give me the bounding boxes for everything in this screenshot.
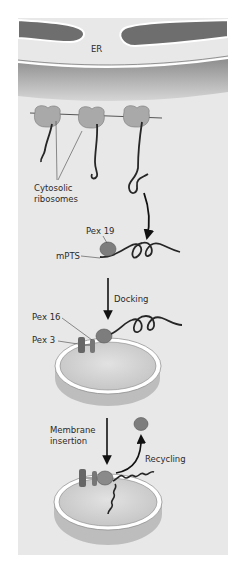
docking-label: Docking xyxy=(114,294,149,304)
pex3-inserted xyxy=(79,469,86,487)
pex16-label: Pex 16 xyxy=(32,312,60,322)
ribosomes-label-line2: ribosomes xyxy=(34,194,79,204)
pex3-protein xyxy=(78,337,85,353)
ribosome-1 xyxy=(34,106,60,127)
pex19-recycled xyxy=(134,418,148,431)
pex16-protein xyxy=(90,339,95,353)
pex16-inserted xyxy=(92,471,97,486)
ribosomes-label-line1: Cytosolic xyxy=(34,183,73,193)
peroxisome-2-lumen xyxy=(59,478,157,526)
ribosome-3 xyxy=(123,106,149,127)
membrane-insertion-label-line2: insertion xyxy=(50,436,87,446)
er-label: ER xyxy=(91,44,102,54)
mpts-label: mPTS xyxy=(56,251,80,261)
pex3-label: Pex 3 xyxy=(32,335,55,345)
peroxisome-1-lumen xyxy=(60,342,156,390)
recycling-label: Recycling xyxy=(145,454,186,464)
pex19-protein xyxy=(100,242,116,256)
peroxisome-membrane-protein-import-diagram: ER Cytosolic ribosomes Pex xyxy=(0,0,238,573)
pex19-docked xyxy=(96,329,112,343)
membrane-insertion-label-line1: Membrane xyxy=(50,425,96,435)
ribosome-2 xyxy=(78,107,104,128)
membrane-protein-inserted xyxy=(97,471,113,485)
pex19-label: Pex 19 xyxy=(86,226,114,236)
